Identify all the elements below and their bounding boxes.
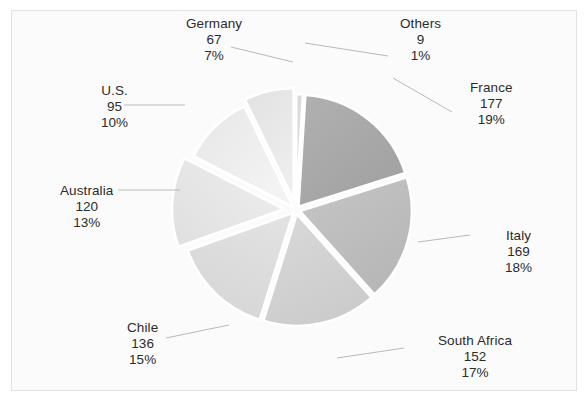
pie-label-name: Germany xyxy=(186,16,242,32)
pie-label-name: Chile xyxy=(127,320,158,336)
pie-label-name: Italy xyxy=(505,228,532,244)
pie-label-australia: Australia 120 13% xyxy=(60,183,113,231)
pie-label-value: 152 xyxy=(438,349,512,365)
pie-label-name: Others xyxy=(400,16,441,32)
pie-label-value: 9 xyxy=(400,32,441,48)
pie-label-value: 95 xyxy=(101,99,128,115)
leader-line-south-africa xyxy=(337,348,404,358)
pie-label-name: South Africa xyxy=(438,333,512,349)
pie-chart-page: Others 9 1% France 177 19% Italy 169 18%… xyxy=(0,0,588,414)
pie-label-percent: 15% xyxy=(127,352,158,368)
pie-label-germany: Germany 67 7% xyxy=(186,16,242,64)
pie-slices-group xyxy=(172,88,412,326)
pie-label-name: U.S. xyxy=(101,83,128,99)
pie-label-percent: 17% xyxy=(438,365,512,381)
pie-label-percent: 18% xyxy=(505,260,532,276)
leader-line-others xyxy=(305,43,388,56)
pie-label-name: France xyxy=(470,80,513,96)
pie-label-percent: 1% xyxy=(400,48,441,64)
leader-line-italy xyxy=(418,235,470,242)
pie-label-chile: Chile 136 15% xyxy=(127,320,158,368)
pie-label-percent: 7% xyxy=(186,48,242,64)
pie-label-name: Australia xyxy=(60,183,113,199)
pie-label-italy: Italy 169 18% xyxy=(505,228,532,276)
pie-label-france: France 177 19% xyxy=(470,80,513,128)
pie-label-value: 177 xyxy=(470,96,513,112)
leader-line-france xyxy=(393,78,452,112)
pie-label-value: 67 xyxy=(186,32,242,48)
pie-label-value: 136 xyxy=(127,336,158,352)
pie-label-percent: 19% xyxy=(470,112,513,128)
pie-label-others: Others 9 1% xyxy=(400,16,441,64)
leader-line-chile xyxy=(166,325,229,338)
pie-label-us: U.S. 95 10% xyxy=(101,83,128,131)
pie-label-percent: 13% xyxy=(60,215,113,231)
pie-label-value: 169 xyxy=(505,244,532,260)
pie-label-value: 120 xyxy=(60,199,113,215)
pie-label-percent: 10% xyxy=(101,115,128,131)
pie-label-south-africa: South Africa 152 17% xyxy=(438,333,512,381)
